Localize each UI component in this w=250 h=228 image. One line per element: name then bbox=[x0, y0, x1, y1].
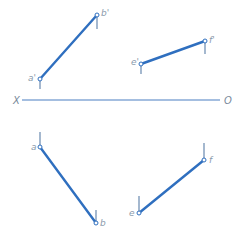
point-f-prime-icon bbox=[203, 39, 207, 43]
label-e: e bbox=[129, 208, 135, 218]
xo-axis: X O bbox=[12, 95, 232, 106]
label-a-prime: a' bbox=[28, 73, 36, 83]
segment-e-f bbox=[139, 160, 204, 213]
segment-a-b bbox=[40, 147, 96, 223]
line-ef-plan: e f bbox=[129, 143, 214, 218]
label-e-prime: e' bbox=[131, 57, 139, 67]
point-b-icon bbox=[94, 221, 98, 225]
segment-a-prime-b-prime bbox=[40, 15, 97, 79]
projection-diagram: X O a' b' e' f' a b e f bbox=[0, 0, 250, 228]
point-a-prime-icon bbox=[38, 77, 42, 81]
line-ef-elevation: e' f' bbox=[131, 35, 215, 74]
point-e-prime-icon bbox=[139, 62, 143, 66]
axis-label-x: X bbox=[12, 95, 21, 106]
label-f-prime: f' bbox=[209, 35, 215, 45]
point-f-icon bbox=[202, 158, 206, 162]
point-e-icon bbox=[137, 211, 141, 215]
label-b-prime: b' bbox=[101, 8, 109, 18]
label-b: b bbox=[100, 218, 106, 228]
point-a-icon bbox=[38, 145, 42, 149]
segment-e-prime-f-prime bbox=[141, 41, 205, 64]
line-ab-plan: a b bbox=[31, 132, 106, 228]
label-a: a bbox=[31, 142, 37, 152]
axis-label-o: O bbox=[224, 95, 232, 106]
point-b-prime-icon bbox=[95, 13, 99, 17]
label-f: f bbox=[209, 155, 214, 165]
line-ab-elevation: a' b' bbox=[28, 8, 109, 89]
